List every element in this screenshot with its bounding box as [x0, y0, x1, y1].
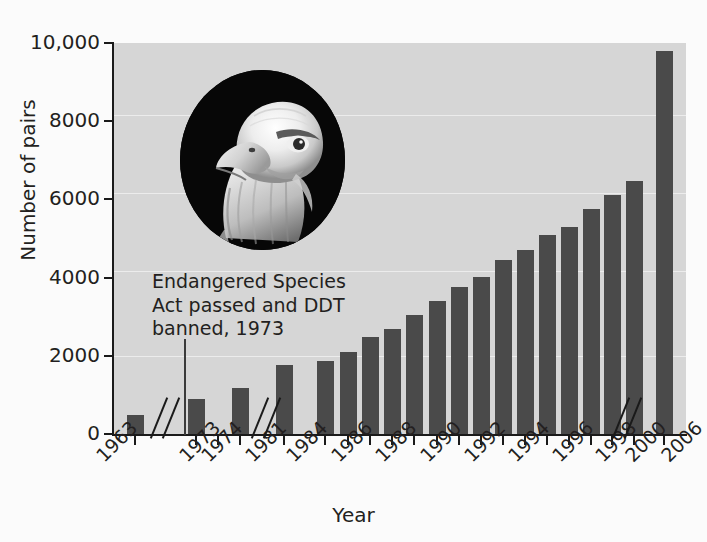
- bar-1991: [429, 301, 446, 434]
- y-tick-label-6000: 6000: [49, 188, 100, 208]
- y-tick-10,000: [104, 42, 113, 44]
- bar-1993: [473, 277, 490, 434]
- annotation-line-2: Act passed and DDT: [152, 294, 352, 318]
- bar-1992: [451, 287, 468, 434]
- y-axis-tick-labels: 0200040006000800010,000: [0, 0, 100, 542]
- y-tick-label-4000: 4000: [49, 267, 100, 287]
- bar-1996: [539, 235, 556, 434]
- y-tick-2000: [104, 355, 113, 357]
- axis-break-1963-1973: [152, 396, 186, 440]
- bar-1997: [561, 227, 578, 434]
- x-axis-title: Year: [0, 503, 707, 527]
- y-axis-line: [112, 42, 114, 435]
- y-tick-4000: [104, 277, 113, 279]
- bar-1990: [406, 315, 423, 434]
- annotation-line-1: Endangered Species: [152, 270, 352, 294]
- bar-2006: [656, 51, 673, 434]
- annotation-line-3: banned, 1973: [152, 317, 352, 341]
- bar-1995: [517, 250, 534, 434]
- y-axis-title: Number of pairs: [16, 70, 40, 290]
- axis-break-2000-2006: [614, 396, 648, 440]
- y-tick-8000: [104, 120, 113, 122]
- axis-break-1974-1981: [253, 396, 287, 440]
- bald-eagle-photo: [180, 70, 345, 250]
- annotation-text: Endangered Species Act passed and DDT ba…: [152, 270, 352, 341]
- bar-1998: [583, 209, 600, 434]
- annotation-pointer-line: [184, 339, 186, 435]
- y-tick-label-2000: 2000: [49, 345, 100, 365]
- bar-1989: [384, 329, 401, 434]
- y-tick-label-0: 0: [87, 423, 100, 443]
- bar-1994: [495, 260, 512, 434]
- y-tick-label-8000: 8000: [49, 110, 100, 130]
- y-tick-6000: [104, 198, 113, 200]
- y-tick-label-10,000: 10,000: [30, 32, 100, 52]
- bald-eagle-population-chart: 0200040006000800010,000 Number of pairs …: [0, 0, 707, 542]
